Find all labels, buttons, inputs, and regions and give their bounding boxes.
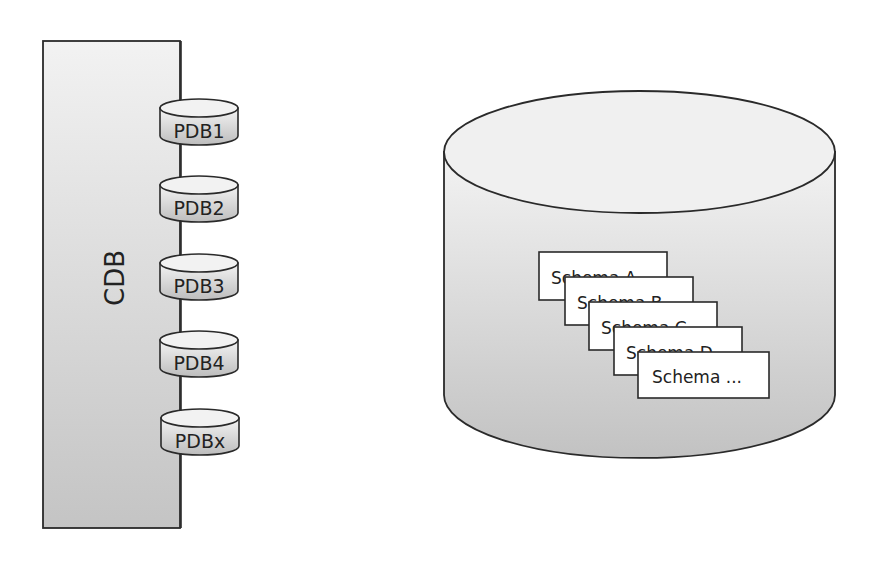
pdb-label: PDBx xyxy=(175,430,225,452)
diagram-canvas: CDB PDB1 PDB2 PDB3 PDB4 PDBx Schema A xyxy=(0,0,874,561)
pdb-cylinder: PDB2 xyxy=(160,176,238,222)
pdb-cylinder: PDB3 xyxy=(160,254,238,300)
pdb-label: PDB1 xyxy=(173,120,224,142)
pdb-label: PDB3 xyxy=(173,275,224,297)
schema-label: Schema ... xyxy=(652,367,742,387)
pdb-label: PDB2 xyxy=(173,197,224,219)
pdb-cylinder: PDB1 xyxy=(160,99,238,145)
cdb-label: CDB xyxy=(100,250,130,306)
pdb-cylinder: PDB4 xyxy=(160,331,238,377)
pdb-label: PDB4 xyxy=(173,352,224,374)
schema-card: Schema ... xyxy=(638,352,769,398)
pdb-cylinder: PDBx xyxy=(161,409,239,455)
